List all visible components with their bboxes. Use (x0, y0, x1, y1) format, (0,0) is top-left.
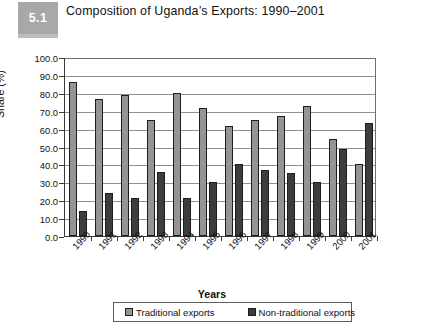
y-axis-tick-label: 50.0 (16, 142, 58, 153)
y-axis-tick-mark (59, 237, 64, 238)
bar-2001-non-traditional (365, 123, 374, 236)
legend-item-traditional: Traditional exports (125, 307, 215, 318)
legend-swatch-non-traditional-icon (248, 308, 256, 316)
bar-2000-traditional (329, 139, 338, 236)
bar-1998-traditional (277, 116, 286, 236)
gridline (65, 112, 375, 113)
legend-swatch-traditional-icon (125, 308, 133, 316)
bar-1996-traditional (225, 126, 234, 236)
page-title: Composition of Uganda’s Exports: 1990–20… (66, 4, 325, 18)
bar-1998-non-traditional (287, 173, 296, 236)
bar-1992-traditional (121, 95, 130, 236)
gridline (65, 94, 375, 95)
y-axis-tick-label: 60.0 (16, 124, 58, 135)
figure-number-badge: 5.1 (18, 2, 58, 34)
y-axis-tick-label: 90.0 (16, 70, 58, 81)
bar-1994-traditional (173, 93, 182, 236)
bar-1993-non-traditional (157, 172, 166, 236)
y-axis-tick-label: 100.0 (16, 53, 58, 64)
bar-1993-traditional (147, 120, 156, 236)
chart-legend: Traditional exports Non-traditional expo… (113, 302, 352, 322)
bar-2001-traditional (355, 164, 364, 236)
figure-header: 5.1 Composition of Uganda’s Exports: 199… (0, 0, 424, 40)
legend-item-non-traditional: Non-traditional exports (248, 307, 356, 318)
bar-1995-non-traditional (209, 182, 218, 236)
bar-1995-traditional (199, 108, 208, 236)
y-axis-tick-label: 30.0 (16, 178, 58, 189)
bar-1999-non-traditional (313, 182, 322, 236)
y-axis-tick-label: 40.0 (16, 160, 58, 171)
bar-1999-traditional (303, 106, 312, 236)
bar-1991-traditional (95, 99, 104, 236)
legend-label-traditional: Traditional exports (136, 307, 215, 318)
bar-1996-non-traditional (235, 164, 244, 236)
gridline (65, 76, 375, 77)
y-axis-title: Share (%) (0, 70, 6, 118)
gridline (65, 130, 375, 131)
plot-area (64, 58, 376, 237)
bar-1997-non-traditional (261, 170, 270, 236)
y-axis-tick-label: 0.0 (16, 232, 58, 243)
y-axis-tick-label: 80.0 (16, 88, 58, 99)
y-axis-tick-label: 70.0 (16, 106, 58, 117)
bar-1997-traditional (251, 120, 260, 236)
x-axis-title: Years (0, 288, 424, 300)
y-axis-tick-label: 10.0 (16, 214, 58, 225)
gridline (65, 58, 375, 59)
y-axis-tick-label: 20.0 (16, 196, 58, 207)
chart-container: Share (%) 0.010.020.030.040.050.060.070.… (0, 40, 424, 329)
legend-label-non-traditional: Non-traditional exports (259, 307, 356, 318)
bar-1990-traditional (69, 82, 78, 236)
bar-2000-non-traditional (339, 149, 348, 236)
